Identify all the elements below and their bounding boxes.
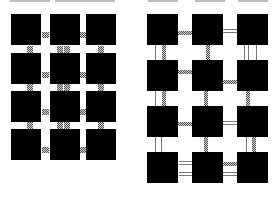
hatched-pad-v xyxy=(57,122,63,129)
hatched-pad-v xyxy=(27,84,33,91)
hatched-pad-v xyxy=(64,84,70,91)
line-h xyxy=(179,164,193,165)
hatched-pad-h xyxy=(80,32,87,38)
line-v xyxy=(248,45,249,60)
line-v xyxy=(246,137,247,152)
line-v xyxy=(244,45,245,60)
black-tile xyxy=(237,152,268,183)
line-v xyxy=(256,45,257,60)
black-tile xyxy=(11,91,41,122)
hatched-pad-v xyxy=(27,46,33,53)
black-tile xyxy=(86,53,116,84)
hatched-bar-h xyxy=(178,122,192,126)
hatched-pad-h xyxy=(80,147,87,153)
hatched-bar-v xyxy=(204,91,208,106)
hatched-bar-h xyxy=(178,31,192,35)
hatched-bar-v xyxy=(162,91,166,106)
hatched-pad-h xyxy=(80,109,87,115)
line-v xyxy=(155,91,156,106)
black-tile xyxy=(86,129,116,160)
black-tile xyxy=(11,129,41,160)
left-grid-panel xyxy=(11,14,116,160)
line-h xyxy=(179,175,193,176)
hatched-pad-h xyxy=(80,72,87,78)
line-h xyxy=(179,172,193,173)
line-h xyxy=(223,175,238,176)
line-v xyxy=(155,45,156,60)
hatched-bar-v xyxy=(246,91,250,106)
black-tile xyxy=(86,91,116,122)
hatched-bar-v xyxy=(252,137,256,152)
black-tile xyxy=(147,60,178,91)
hatched-pad-h xyxy=(42,147,49,153)
hatched-pad-h xyxy=(42,32,49,38)
hatched-pad-v xyxy=(64,122,70,129)
line-v xyxy=(155,137,156,152)
black-tile xyxy=(50,91,80,122)
line-h xyxy=(222,121,237,122)
black-tile xyxy=(237,60,268,91)
hatched-pad-h xyxy=(42,72,49,78)
hatched-pad-v xyxy=(98,46,104,53)
hatched-pad-v xyxy=(98,122,104,129)
line-h xyxy=(179,161,193,162)
black-tile xyxy=(86,14,116,45)
black-tile xyxy=(50,14,80,45)
black-tile xyxy=(147,14,178,45)
tile-grid-figure xyxy=(0,0,277,197)
black-tile xyxy=(192,152,223,183)
hatched-pad-h xyxy=(42,109,49,115)
black-tile xyxy=(237,14,268,45)
line-v xyxy=(161,137,162,152)
line-h xyxy=(222,124,237,125)
hatched-bar-v xyxy=(204,137,208,152)
black-tile xyxy=(237,106,268,137)
black-tile xyxy=(11,14,41,45)
hatched-pad-v xyxy=(57,84,63,91)
hatched-pad-v xyxy=(98,84,104,91)
hatched-bar-h xyxy=(223,162,238,166)
black-tile xyxy=(192,14,223,45)
hatched-pad-v xyxy=(27,122,33,129)
line-h xyxy=(222,32,237,33)
hatched-pad-v xyxy=(64,46,70,53)
black-tile xyxy=(192,60,223,91)
black-tile xyxy=(50,53,80,84)
black-tile xyxy=(192,106,223,137)
line-h xyxy=(222,29,237,30)
line-h xyxy=(223,172,238,173)
black-tile xyxy=(50,129,80,160)
black-tile xyxy=(11,53,41,84)
hatched-pad-v xyxy=(57,46,63,53)
black-tile xyxy=(147,152,178,183)
hatched-bar-h xyxy=(178,70,192,74)
hatched-bar-v xyxy=(162,45,166,60)
hatched-bar-v xyxy=(206,45,210,60)
hatched-bar-h xyxy=(222,80,237,84)
right-grid-panel xyxy=(147,14,268,183)
black-tile xyxy=(147,106,178,137)
